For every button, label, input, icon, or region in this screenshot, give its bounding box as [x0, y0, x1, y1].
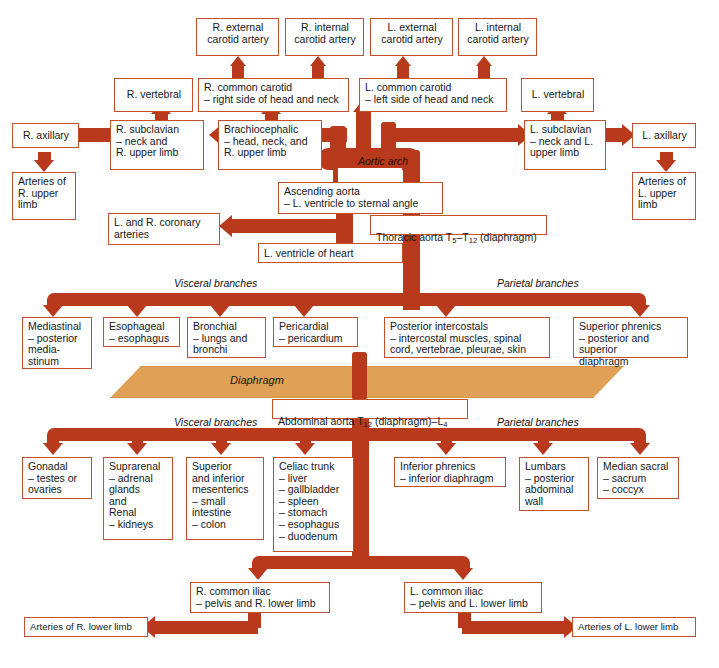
- box-thoracic-aorta[interactable]: Thoracic aorta T5–T12 (diaphragm): [370, 215, 547, 235]
- arrowhead-inferior-phrenics: [436, 443, 456, 455]
- aortic-arch-label: Aortic arch: [358, 155, 408, 167]
- box-inferior-phrenics[interactable]: Inferior phrenics – inferior diaphragm: [394, 457, 506, 487]
- vessel-thoracic-visceral-bus: [47, 293, 419, 306]
- visceral-branches-abdominal-label: Visceral branches: [174, 416, 257, 428]
- arrowhead-l-external-carotid: [395, 56, 411, 66]
- abdominal-aorta-sub-2: 4: [443, 419, 447, 428]
- abdominal-aorta-text-mid: (diaphragm)–L: [372, 415, 443, 427]
- box-suprarenal-renal[interactable]: Suprarenal – adrenal glands and Renal – …: [103, 457, 173, 540]
- arrowhead-r-internal-carotid: [310, 56, 326, 66]
- arrowhead-coronary-arteries: [219, 215, 232, 237]
- vessel-l-internal-carotid-up: [478, 65, 490, 78]
- box-arteries-r-upper-limb[interactable]: Arteries of R. upper limb: [12, 172, 76, 220]
- visceral-branches-thoracic-label: Visceral branches: [174, 277, 257, 289]
- arrowhead-arteries-l-upper-limb: [656, 160, 676, 172]
- box-lumbars[interactable]: Lumbars – posterior abdominal wall: [519, 457, 589, 511]
- box-celiac-trunk[interactable]: Celiac trunk – liver – gallbladder – spl…: [273, 457, 354, 552]
- parietal-branches-abdominal-label: Parietal branches: [497, 416, 579, 428]
- box-l-ventricle-of-heart[interactable]: L. ventricle of heart: [258, 243, 403, 263]
- box-arteries-l-upper-limb[interactable]: Arteries of L. upper limb: [632, 172, 696, 220]
- box-esophageal[interactable]: Esophageal – esophagus: [103, 317, 180, 347]
- box-l-common-iliac[interactable]: L. common iliac – pelvis and L. lower li…: [404, 582, 542, 613]
- arrowhead-r-external-carotid: [230, 56, 246, 66]
- vessel-l-lower-limb-horizontal: [462, 621, 566, 634]
- box-superior-inferior-mesenterics[interactable]: Superior and inferior mesenterics – smal…: [186, 457, 264, 540]
- vessel-l-subclavian-horizontal: [388, 128, 520, 142]
- arrowhead-bronchial: [210, 305, 230, 317]
- box-coronary-arteries[interactable]: L. and R. coronary arteries: [108, 213, 220, 245]
- aorta-branches-diagram: Diaphragm Aortic arch Visceral branches …: [0, 0, 719, 668]
- box-bronchial[interactable]: Bronchial – lungs and bronchi: [187, 317, 266, 358]
- box-ascending-aorta[interactable]: Ascending aorta – L. ventricle to sterna…: [278, 182, 443, 214]
- vessel-to-coronary-arteries: [232, 219, 350, 233]
- box-abdominal-aorta[interactable]: Abdominal aorta T12 (diaphragm)–L4: [272, 399, 468, 419]
- arrowhead-lumbars: [533, 443, 553, 455]
- box-r-common-iliac[interactable]: R. common iliac – pelvis and R. lower li…: [190, 582, 330, 613]
- box-r-axillary[interactable]: R. axillary: [12, 123, 79, 148]
- box-arteries-r-lower-limb[interactable]: Arteries of R. lower limb: [24, 617, 148, 637]
- box-pericardial[interactable]: Pericardial – pericardium: [273, 317, 358, 347]
- arrowhead-superior-phrenics: [630, 305, 650, 317]
- box-l-internal-carotid-artery[interactable]: L. internal carotid artery: [458, 18, 537, 56]
- vessel-aorta-lower: [352, 440, 369, 564]
- box-gonadal[interactable]: Gonadal – testes or ovaries: [22, 457, 92, 499]
- abdominal-aorta-text-pre: Abdominal aorta T: [278, 415, 364, 427]
- vessel-r-internal-carotid-up: [312, 65, 324, 78]
- box-brachiocephalic[interactable]: Brachiocephalic – head, neck, and R. upp…: [218, 120, 322, 170]
- arrowhead-arteries-r-upper-limb: [34, 160, 54, 172]
- box-l-subclavian[interactable]: L. subclavian – neck and L. upper limb: [524, 120, 606, 170]
- box-arteries-l-lower-limb[interactable]: Arteries of L. lower limb: [572, 617, 696, 637]
- box-r-vertebral[interactable]: R. vertebral: [114, 78, 193, 112]
- arrowhead-posterior-intercostals: [436, 305, 456, 317]
- vessel-aorta-through-diaphragm: [352, 352, 367, 400]
- box-l-external-carotid-artery[interactable]: L. external carotid artery: [370, 18, 453, 56]
- arrowhead-pericardial: [294, 305, 314, 317]
- vessel-iliac-bifurcation-bar: [252, 556, 470, 569]
- box-superior-phrenics[interactable]: Superior phrenics – posterior and superi…: [573, 317, 688, 358]
- box-r-subclavian[interactable]: R. subclavian – neck and R. upper limb: [110, 120, 204, 170]
- abdominal-aorta-sub-1: 12: [364, 419, 372, 428]
- box-r-external-carotid-artery[interactable]: R. external carotid artery: [196, 18, 279, 56]
- arrowhead-median-sacral: [630, 443, 650, 455]
- thoracic-aorta-sub-2: 12: [469, 235, 477, 244]
- box-r-internal-carotid-artery[interactable]: R. internal carotid artery: [285, 18, 364, 56]
- diaphragm-band: [110, 366, 624, 398]
- box-posterior-intercostals[interactable]: Posterior intercostals – intercostal mus…: [384, 317, 550, 358]
- arrowhead-mediastinal: [43, 305, 63, 317]
- box-mediastinal[interactable]: Mediastinal – posterior media- stinum: [22, 317, 92, 369]
- box-l-vertebral[interactable]: L. vertebral: [521, 78, 594, 112]
- parietal-branches-thoracic-label: Parietal branches: [497, 277, 579, 289]
- vessel-r-lower-limb-horizontal: [154, 621, 258, 634]
- arrowhead-gonadal: [43, 443, 63, 455]
- box-median-sacral[interactable]: Median sacral – sacrum – coccyx: [597, 457, 679, 499]
- box-l-common-carotid[interactable]: L. common carotid – left side of head an…: [359, 78, 507, 112]
- vessel-l-common-carotid-stalk: [356, 110, 371, 155]
- vessel-r-external-carotid-up: [232, 65, 244, 78]
- arrowhead-mesenterics: [211, 443, 231, 455]
- box-r-common-carotid[interactable]: R. common carotid – right side of head a…: [198, 78, 349, 112]
- thoracic-aorta-text-mid: –T: [456, 231, 468, 243]
- vessel-l-external-carotid-up: [397, 65, 409, 78]
- arrowhead-suprarenal: [127, 443, 147, 455]
- box-l-axillary[interactable]: L. axillary: [632, 123, 696, 148]
- arrowhead-esophageal: [127, 305, 147, 317]
- arrowhead-l-common-iliac: [453, 568, 473, 580]
- arrowhead-r-common-iliac: [248, 568, 268, 580]
- thoracic-aorta-text-post: (diaphragm): [477, 231, 537, 243]
- diaphragm-label: Diaphragm: [230, 374, 284, 386]
- thoracic-aorta-text-pre: Thoracic aorta T: [376, 231, 452, 243]
- arrowhead-celiac-trunk: [295, 443, 315, 455]
- arrowhead-l-internal-carotid: [476, 56, 492, 66]
